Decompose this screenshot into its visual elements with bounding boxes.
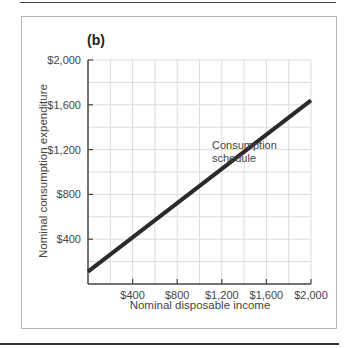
x-axis-title: Nominal disposable income xyxy=(130,299,271,311)
annotation-line1: Consumption xyxy=(212,139,277,151)
consumption-chart: (b) $400$800$1,200$1,600$2,000 $400$800$… xyxy=(0,0,356,348)
y-tick-label: $1,600 xyxy=(47,99,81,111)
annotation-line2: schedule xyxy=(212,152,256,164)
y-tick-label: $800 xyxy=(57,188,81,200)
y-axis-title: Nominal consumption expenditure xyxy=(37,84,49,258)
y-axis-ticks: $400$800$1,200$1,600$2,000 xyxy=(47,54,93,245)
x-axis-ticks: $400$800$1,200$1,600$2,000 xyxy=(120,279,327,301)
x-tick-label: $2,000 xyxy=(294,289,328,301)
y-tick-label: $400 xyxy=(57,233,81,245)
y-tick-label: $2,000 xyxy=(47,54,81,66)
y-tick-label: $1,200 xyxy=(47,144,81,156)
grid-lines xyxy=(88,60,311,284)
panel-label: (b) xyxy=(87,32,105,48)
